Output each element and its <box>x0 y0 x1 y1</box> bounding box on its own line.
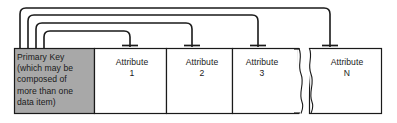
diagram-canvas <box>0 0 397 123</box>
connector-to-attribute-3[interactable] <box>28 15 258 49</box>
connector-to-attribute-1[interactable] <box>44 31 130 49</box>
connector-to-attribute-2[interactable] <box>36 23 192 49</box>
connector-group <box>20 8 330 49</box>
attribute-n-cell[interactable] <box>310 49 382 114</box>
record-structure-diagram: Primary Key (which may be composed of mo… <box>0 0 397 123</box>
connector-to-attribute-n[interactable] <box>20 8 330 49</box>
attribute-1-cell[interactable] <box>95 49 167 114</box>
primary-key-cell[interactable] <box>15 49 95 114</box>
attribute-3-cell[interactable] <box>233 49 299 114</box>
attribute-2-cell[interactable] <box>167 49 233 114</box>
